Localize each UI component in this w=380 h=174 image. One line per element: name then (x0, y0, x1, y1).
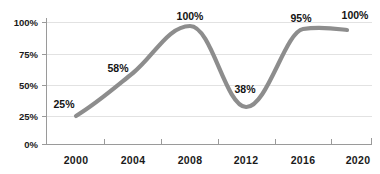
axes (42, 18, 372, 145)
data-label-2008: 100% (177, 10, 205, 22)
data-label-2016: 95% (290, 12, 312, 24)
data-label-2020: 100% (342, 9, 370, 21)
data-label-2012: 38% (234, 83, 256, 95)
x-axis-labels: 2000 2004 2008 2012 2016 2020 (64, 154, 371, 166)
chart-canvas: 100% 75% 50% 25% 0% 2000 2004 2008 2012 … (0, 0, 380, 174)
y-tick-label-100: 100% (14, 17, 39, 28)
x-tick-label-2016: 2016 (291, 154, 316, 166)
y-tick-label-50: 50% (19, 80, 39, 91)
y-tick-label-0: 0% (24, 139, 38, 150)
line-chart: 100% 75% 50% 25% 0% 2000 2004 2008 2012 … (0, 0, 380, 174)
y-tick-label-75: 75% (19, 49, 39, 60)
x-tick-label-2008: 2008 (178, 154, 203, 166)
data-label-2004: 58% (107, 62, 129, 74)
data-label-2000: 25% (53, 98, 75, 110)
x-tick-label-2000: 2000 (64, 154, 89, 166)
y-tick-label-25: 25% (19, 111, 39, 122)
data-labels: 25% 58% 100% 38% 95% 100% (53, 9, 369, 110)
x-tick-label-2004: 2004 (121, 154, 146, 166)
x-tick-label-2012: 2012 (234, 154, 259, 166)
x-tick-label-2020: 2020 (346, 154, 371, 166)
y-axis-labels: 100% 75% 50% 25% 0% (14, 17, 39, 150)
